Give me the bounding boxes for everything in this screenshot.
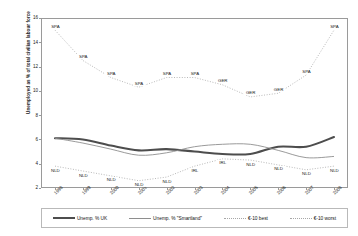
legend-swatch-icon [290,218,312,219]
data-point-label: SPA [328,24,341,29]
y-tick-label: 2 [24,185,38,190]
data-point-label: NLD [272,166,285,171]
legend-item[interactable]: Unemp. % "Smartland" [129,216,202,221]
y-tick-mark [39,115,41,116]
legend-label: €-10 worst [314,216,336,221]
data-point-label: SPA [77,54,90,59]
data-point-label: SPA [189,71,202,76]
data-point-label: SPA [300,69,313,74]
data-point-label: IRL [189,168,202,173]
data-point-label: NLD [105,177,118,182]
data-point-label: NLD [244,162,257,167]
y-tick-label: 14 [24,40,38,45]
y-tick-mark [39,139,41,140]
chart-legend: Unemp. % UKUnemp. % "Smartland"€-10 best… [41,208,348,228]
legend-item[interactable]: €-10 worst [290,216,336,221]
y-tick-mark [39,188,41,189]
chart-figure: Unemployed as % of total civilian labour… [0,0,358,236]
y-tick-label: 12 [24,64,38,69]
data-point-label: GER [244,90,257,95]
legend-swatch-icon [129,218,151,219]
legend-label: Unemp. % UK [77,216,107,221]
data-point-label: SPA [161,71,174,76]
data-point-label: NLD [328,168,341,173]
legend-item[interactable]: €-10 best [224,216,268,221]
data-point-label: NLD [133,182,146,187]
y-tick-mark [39,91,41,92]
legend-swatch-icon [53,217,75,219]
legend-label: €-10 best [248,216,268,221]
y-tick-mark [39,67,41,68]
data-point-label: SPA [49,24,62,29]
data-point-label: SPA [105,71,118,76]
y-tick-mark [39,42,41,43]
plot-area [41,18,348,188]
data-point-label: NLD [300,171,313,176]
data-point-label: IRL [216,160,229,165]
y-tick-label: 4 [24,161,38,166]
data-point-label: NLD [161,179,174,184]
y-tick-label: 6 [24,137,38,142]
data-point-label: NLD [77,173,90,178]
data-point-label: GER [272,87,285,92]
legend-swatch-icon [224,218,246,219]
data-point-label: SPA [133,81,146,86]
y-tick-mark [39,164,41,165]
data-point-label: NLD [49,168,62,173]
legend-item[interactable]: Unemp. % UK [53,216,107,221]
y-tick-mark [39,18,41,19]
legend-label: Unemp. % "Smartland" [153,216,202,221]
y-tick-label: 16 [24,15,38,20]
y-tick-label: 10 [24,88,38,93]
y-tick-label: 8 [24,113,38,118]
data-point-label: GER [216,78,229,83]
